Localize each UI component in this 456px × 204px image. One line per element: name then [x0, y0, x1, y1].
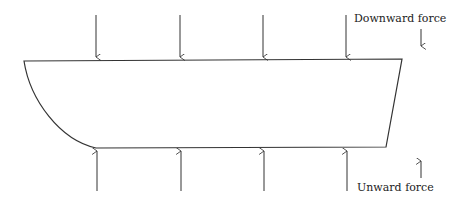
upward-force-label: Unward force: [357, 181, 434, 194]
downward-force-label: Downward force: [354, 12, 446, 25]
hull-shape: [24, 59, 402, 148]
buoyancy-diagram: Downward force Unward force: [0, 0, 456, 204]
upward-arrows: [97, 151, 347, 191]
downward-arrows: [96, 15, 346, 57]
